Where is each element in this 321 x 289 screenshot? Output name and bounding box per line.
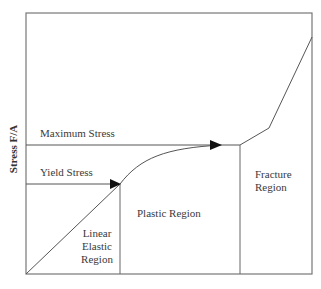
- plastic-region-label: Plastic Region: [137, 207, 201, 220]
- yield-stress-label: Yield Stress: [40, 166, 93, 179]
- max-arrow-icon: [210, 140, 222, 150]
- yield-arrow-icon: [110, 179, 121, 189]
- stress-strain-diagram: [0, 0, 321, 289]
- fracture-region-label: Fracture Region: [255, 168, 292, 194]
- maximum-stress-label: Maximum Stress: [40, 127, 115, 140]
- y-axis-label: Stress F/A: [7, 124, 19, 174]
- stress-strain-curve: [120, 37, 312, 184]
- plot-frame: [26, 13, 312, 274]
- linear-elastic-region-label: Linear Elastic Region: [74, 227, 120, 266]
